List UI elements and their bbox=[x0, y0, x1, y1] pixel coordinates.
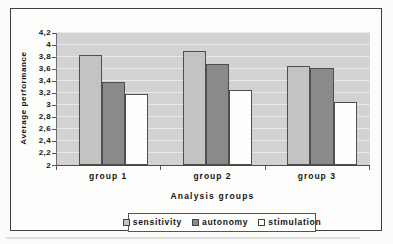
y-tick-mark bbox=[52, 57, 56, 58]
y-tick-label: 2,8 bbox=[11, 112, 51, 121]
y-tick-mark bbox=[52, 129, 56, 130]
y-tick-mark bbox=[52, 81, 56, 82]
y-tick-label: 2,6 bbox=[11, 124, 51, 133]
gridline bbox=[57, 32, 370, 33]
legend-item-sensitivity: sensitivity bbox=[123, 218, 182, 227]
bar-sensitivity-group-2 bbox=[183, 51, 206, 165]
y-tick-mark bbox=[52, 45, 56, 46]
scanned-figure-page: { "figure": { "frame_border_color": "#3f… bbox=[0, 0, 393, 244]
x-tick-mark bbox=[56, 166, 57, 170]
plot-area bbox=[56, 33, 370, 167]
bar-sensitivity-group-1 bbox=[79, 55, 102, 165]
y-tick-label: 2,2 bbox=[11, 148, 51, 157]
category-label-group-1: group 1 bbox=[56, 171, 160, 181]
legend-label-sensitivity: sensitivity bbox=[133, 218, 182, 227]
y-tick-mark bbox=[52, 33, 56, 34]
gridline bbox=[57, 56, 370, 57]
legend-label-autonomy: autonomy bbox=[202, 218, 248, 227]
y-tick-label: 3,8 bbox=[11, 52, 51, 61]
legend-swatch-stimulation-icon bbox=[258, 219, 265, 226]
y-tick-label: 2,4 bbox=[11, 136, 51, 145]
y-tick-mark bbox=[52, 141, 56, 142]
x-axis-title: Analysis groups bbox=[56, 191, 369, 201]
legend-item-autonomy: autonomy bbox=[192, 218, 248, 227]
y-tick-mark bbox=[52, 69, 56, 70]
legend-swatch-autonomy-icon bbox=[192, 219, 199, 226]
y-tick-label: 4,2 bbox=[11, 28, 51, 37]
y-axis-title: Average performance bbox=[19, 36, 31, 160]
bar-sensitivity-group-3 bbox=[287, 66, 310, 165]
bar-autonomy-group-3 bbox=[310, 68, 333, 165]
y-tick-label: 3,4 bbox=[11, 76, 51, 85]
y-tick-mark bbox=[52, 93, 56, 94]
y-tick-mark bbox=[52, 153, 56, 154]
y-tick-label: 4 bbox=[11, 40, 51, 49]
category-label-group-3: group 3 bbox=[265, 171, 369, 181]
y-tick-mark bbox=[52, 105, 56, 106]
legend-label-stimulation: stimulation bbox=[268, 218, 321, 227]
chart-frame: 22,22,42,62,833,23,43,63,844,2 group 1gr… bbox=[10, 8, 382, 231]
y-tick-label: 3,2 bbox=[11, 88, 51, 97]
legend-swatch-sensitivity-icon bbox=[123, 219, 130, 226]
x-tick-mark bbox=[265, 166, 266, 170]
bar-autonomy-group-2 bbox=[206, 64, 229, 165]
y-tick-label: 3 bbox=[11, 100, 51, 109]
bar-stimulation-group-1 bbox=[125, 94, 148, 165]
legend-item-stimulation: stimulation bbox=[258, 218, 321, 227]
y-tick-mark bbox=[52, 117, 56, 118]
bar-stimulation-group-2 bbox=[229, 90, 252, 165]
bar-stimulation-group-3 bbox=[334, 102, 357, 165]
y-tick-label: 2 bbox=[11, 161, 51, 170]
chart-legend: sensitivityautonomystimulation bbox=[128, 213, 316, 232]
y-tick-label: 3,6 bbox=[11, 64, 51, 73]
bar-autonomy-group-1 bbox=[102, 82, 125, 165]
x-tick-mark bbox=[369, 166, 370, 170]
x-tick-mark bbox=[160, 166, 161, 170]
gridline bbox=[57, 44, 370, 45]
scan-artifact-line bbox=[6, 237, 360, 239]
category-label-group-2: group 2 bbox=[160, 171, 264, 181]
